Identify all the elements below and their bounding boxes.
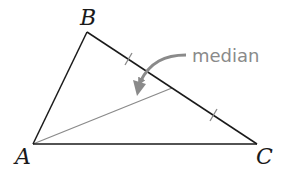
median-label: median	[192, 45, 259, 66]
tick-mark-bm	[125, 53, 132, 65]
diagram-canvas: B A C median	[0, 0, 289, 170]
side-ab	[33, 32, 87, 144]
vertex-label-b: B	[79, 5, 96, 30]
triangle-diagram: B A C median	[0, 0, 289, 170]
tick-mark-mc	[210, 109, 217, 121]
arrow-icon	[140, 55, 186, 82]
vertex-label-a: A	[13, 144, 31, 169]
arrowhead-icon	[133, 80, 146, 96]
vertex-label-c: C	[256, 144, 273, 169]
median-line	[33, 88, 172, 144]
